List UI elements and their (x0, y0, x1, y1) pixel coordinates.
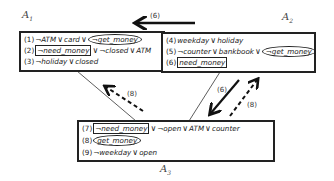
or-operator: ∨ (210, 36, 216, 45)
literal: ¬weekday (93, 148, 131, 157)
or-operator: ∨ (205, 124, 211, 133)
clause-2: (2)¬need_money∨¬closed∨ATM (24, 46, 151, 56)
agent-a3-box: (7)¬need_money∨¬open∨ATM∨counter (8)get_… (77, 120, 275, 162)
or-operator: ∨ (92, 46, 98, 55)
or-operator: ∨ (150, 124, 156, 133)
literal: ¬open (157, 124, 181, 133)
clause-4: (4)weekday∨holiday (166, 36, 243, 46)
boxed-literal: ¬need_money (35, 45, 91, 56)
boxed-literal: need_money (177, 57, 227, 68)
literal: bankbook (219, 47, 254, 56)
or-operator: ∨ (57, 35, 63, 44)
literal: open (139, 148, 157, 157)
circled-literal: ¬get_money (262, 46, 316, 57)
literal: ATM (189, 124, 204, 133)
clause-8: (8)get_money (82, 136, 141, 146)
clause-5: (5)¬counter∨bankbook∨¬get_money (166, 47, 316, 57)
arrow-label-a2-a1: (6) (150, 12, 160, 20)
literal: ¬counter (177, 47, 211, 56)
literal: ATM (136, 46, 151, 55)
literal: ¬closed (99, 46, 128, 55)
or-operator: ∨ (68, 57, 74, 66)
literal: ¬ATM (35, 35, 56, 44)
literal: weekday (177, 36, 209, 45)
clause-number: (9) (82, 148, 92, 157)
literal: card (64, 35, 80, 44)
agent-a2-box: (4)weekday∨holiday (5)¬counter∨bankbook∨… (161, 32, 316, 73)
clause-number: (4) (166, 36, 176, 45)
or-operator: ∨ (129, 46, 135, 55)
circled-literal: get_money (93, 135, 141, 146)
clause-6: (6)need_money (166, 58, 227, 68)
literal: counter (212, 124, 240, 133)
literal: ¬holiday (35, 57, 67, 66)
arrow-label-a3-a1: (8) (127, 90, 137, 98)
circled-literal: ¬get_money (88, 34, 142, 45)
clause-3: (3)¬holiday∨closed (24, 57, 98, 67)
or-operator: ∨ (255, 47, 261, 56)
arrow-label-a3-a2: (8) (247, 101, 257, 109)
clause-number: (6) (166, 58, 176, 67)
clause-1: (1)¬ATM∨card∨¬get_money (24, 35, 142, 45)
or-operator: ∨ (182, 124, 188, 133)
connector-a2-a3 (189, 72, 220, 121)
arrow-label-a2-a3: (6) (217, 86, 227, 94)
clause-7: (7)¬need_money∨¬open∨ATM∨counter (82, 124, 240, 134)
agent-a1-box: (1)¬ATM∨card∨¬get_money (2)¬need_money∨¬… (19, 31, 165, 72)
clause-number: (8) (82, 136, 92, 145)
clause-9: (9)¬weekday∨open (82, 148, 157, 158)
clause-number: (7) (82, 124, 92, 133)
clause-number: (5) (166, 47, 176, 56)
arrow-a3-to-a1 (106, 87, 143, 111)
boxed-literal: ¬need_money (93, 123, 149, 134)
or-operator: ∨ (212, 47, 218, 56)
or-operator: ∨ (132, 148, 138, 157)
clause-number: (3) (24, 57, 34, 66)
literal: holiday (217, 36, 243, 45)
literal: closed (75, 57, 98, 66)
or-operator: ∨ (81, 35, 87, 44)
clause-number: (2) (24, 46, 34, 55)
clause-number: (1) (24, 35, 34, 44)
